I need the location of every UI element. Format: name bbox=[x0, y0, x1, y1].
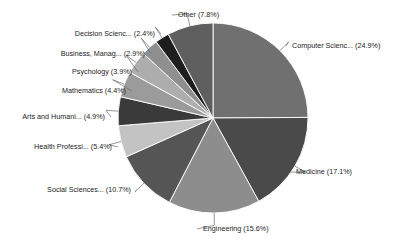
pie-chart-canvas: Computer Scienc... (24.9%)Medicine (17.1… bbox=[0, 0, 402, 241]
pie-label-psychology: Psychology (3.9%) bbox=[72, 67, 132, 76]
pie-slice[interactable]: Computer Scienc... (24.9%) bbox=[213, 23, 308, 118]
pie-leader-line bbox=[155, 27, 162, 37]
pie-chart: Computer Scienc... (24.9%)Medicine (17.1… bbox=[0, 0, 402, 241]
pie-label-medicine: Medicine (17.1%) bbox=[296, 167, 352, 176]
pie-leader-line bbox=[280, 42, 289, 51]
pie-label-health-professions: Health Professi... (5.4%) bbox=[34, 142, 112, 151]
pie-label-social-sciences: Social Sciences... (10.7%) bbox=[47, 185, 131, 194]
pie-label-other: Other (7.8%) bbox=[178, 10, 219, 19]
pie-slices-group: Computer Scienc... (24.9%)Medicine (17.1… bbox=[118, 23, 308, 213]
pie-label-engineering: Engineering (15.6%) bbox=[203, 224, 269, 233]
pie-label-business-management: Business, Manag... (2.9%) bbox=[61, 49, 145, 58]
pie-label-arts-and-humanities: Arts and Humani... (4.9%) bbox=[22, 112, 105, 121]
pie-leader-line bbox=[135, 183, 144, 191]
pie-leader-line bbox=[106, 110, 118, 117]
pie-label-mathematics: Mathematics (4.4%) bbox=[62, 86, 126, 95]
pie-label-computer-science: Computer Scienc... (24.9%) bbox=[292, 41, 380, 50]
pie-label-decision-sciences: Decision Scienc... (2.4%) bbox=[75, 29, 155, 38]
